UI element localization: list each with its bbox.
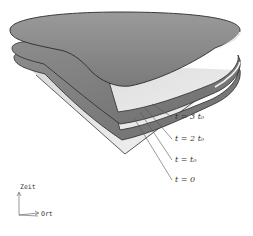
label-t1: t = t₀	[175, 155, 197, 164]
axis-label-zeit: Zeit	[20, 183, 36, 191]
axis-label-ort: Ort	[41, 210, 53, 218]
label-t2: t = 2 t₀	[175, 134, 205, 143]
cone-diagram: t = 3 t₀ t = 2 t₀ t = t₀ t = 0 Zeit Ort	[0, 0, 253, 236]
label-t0: t = 0	[175, 175, 195, 184]
axes-indicator	[17, 192, 39, 216]
label-t3: t = 3 t₀	[175, 112, 205, 121]
